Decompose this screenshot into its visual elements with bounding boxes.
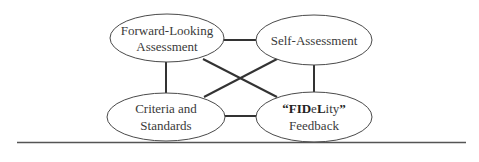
node-label-line2: Feedback [289,118,339,133]
node-forward-looking-assessment: Forward-Looking Assessment [110,14,224,62]
node-label-line1: Criteria and [135,101,197,116]
node-label-line2: Assessment [136,39,198,54]
node-fidelity-feedback: “FIDeLity” Feedback [256,92,372,142]
fidelity-part: ” [339,101,346,116]
node-label-line1: “FIDeLity” [282,101,346,116]
node-criteria-and-standards: Criteria and Standards [107,93,225,141]
node-label-line2: Standards [140,118,191,133]
fidelity-part: L [317,101,326,116]
fidelity-part: “FID [282,101,311,116]
node-label-line1: Forward-Looking [121,23,214,38]
fidelity-part: ity [326,101,340,116]
node-self-assessment: Self-Assessment [256,15,372,65]
node-label: Self-Assessment [271,33,358,48]
diagram-canvas: Forward-Looking Assessment Self-Assessme… [0,0,479,162]
